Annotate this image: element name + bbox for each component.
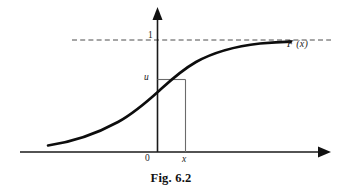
origin-label: 0 [145, 154, 150, 164]
cdf-curve-path [48, 42, 291, 146]
figure-caption: Fig. 6.2 [0, 171, 342, 186]
u-level-label: u [144, 73, 149, 83]
cdf-plot-svg [0, 0, 342, 192]
asymptote-value-label: 1 [148, 31, 153, 41]
x-axis-arrow-icon [318, 147, 331, 158]
x-point-label: x [182, 155, 186, 165]
y-axis-arrow-icon [153, 7, 163, 20]
curve-label: F (x) [287, 39, 308, 49]
figure-container: 1 u 0 x F (x) Fig. 6.2 [0, 0, 342, 192]
